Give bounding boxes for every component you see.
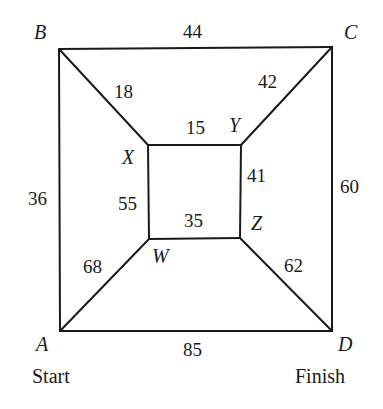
vertex-label-X: X (121, 146, 135, 168)
start-caption: Start (32, 365, 70, 387)
weight-X-W: 55 (118, 193, 137, 214)
weight-D-Z: 62 (284, 255, 303, 276)
edge-D-Z (240, 238, 332, 331)
weight-B-X: 18 (114, 81, 133, 102)
vertex-label-Z: Z (251, 212, 263, 234)
edge-C-Y (241, 47, 332, 145)
weight-A-B: 36 (28, 188, 47, 209)
vertex-label-Y: Y (229, 114, 242, 136)
edge-Y-Z (240, 145, 241, 238)
weight-A-D: 85 (183, 339, 202, 360)
weight-C-Y: 42 (258, 71, 277, 92)
edge-B-X (59, 49, 148, 145)
vertex-label-B: B (34, 21, 46, 43)
graph-diagram: 44 36 60 85 18 42 68 62 15 41 35 55 B C … (0, 0, 383, 409)
edge-A-W (60, 239, 149, 331)
edge-B-C (59, 47, 332, 49)
weight-Y-Z: 41 (247, 165, 266, 186)
vertex-label-A: A (34, 333, 49, 355)
vertex-label-C: C (344, 21, 358, 43)
weight-A-W: 68 (83, 256, 102, 277)
weight-X-Y: 15 (186, 117, 205, 138)
vertex-label-D: D (337, 333, 353, 355)
weight-C-D: 60 (340, 176, 359, 197)
weight-W-Z: 35 (184, 210, 203, 231)
edge-W-Z (149, 238, 240, 239)
finish-caption: Finish (295, 365, 345, 387)
edge-X-W (148, 145, 149, 239)
weight-B-C: 44 (183, 21, 203, 42)
edge-A-B (59, 49, 60, 331)
vertex-label-W: W (152, 245, 171, 267)
